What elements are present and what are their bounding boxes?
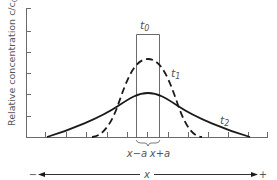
diffusion-figure: t0 t1 t2 x−a x+a − + x Relative concentr…	[0, 0, 277, 179]
y-axis	[26, 8, 31, 138]
label-t0: t0	[140, 19, 149, 33]
label-t1: t1	[171, 67, 180, 81]
label-x-minus-a: x−a	[126, 148, 147, 159]
x-axis-label: x	[143, 169, 150, 180]
label-t2: t2	[220, 114, 229, 128]
arrow-right-icon	[251, 172, 258, 177]
minus-sign: −	[29, 169, 37, 179]
plus-sign: +	[259, 169, 267, 179]
curve-t1-dashed	[92, 59, 202, 137]
interval-braces	[136, 140, 160, 146]
curve-t0-rectangle	[137, 35, 160, 138]
y-axis-label: Relative concentration c/c0	[6, 0, 19, 126]
arrow-left-icon	[38, 172, 45, 177]
label-x-plus-a: x+a	[149, 148, 170, 159]
